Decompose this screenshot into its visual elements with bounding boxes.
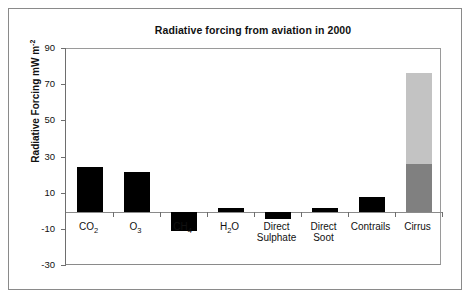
x-tick-label-cirrus: Cirrus: [378, 221, 458, 233]
bar-cirrus-lower-segment: [406, 164, 432, 212]
chart-title: Radiative forcing from aviation in 2000: [65, 24, 441, 36]
bar-contrails: [359, 197, 385, 211]
bar-co2: [77, 167, 103, 212]
y-tick-mark: [61, 265, 66, 266]
y-tick-mark: [61, 84, 66, 85]
y-axis-label: Radiative Forcing mW m-2: [29, 6, 41, 196]
x-tick-mark: [254, 212, 255, 217]
bar-direct-soot: [312, 208, 338, 212]
y-tick-label: 90: [21, 42, 55, 53]
bar-direct-sulphate: [265, 212, 291, 219]
x-tick-mark: [301, 212, 302, 217]
x-tick-mark: [395, 212, 396, 217]
y-tick-label: 30: [21, 151, 55, 162]
y-axis-label-text: Radiative Forcing mW m: [30, 46, 41, 163]
bar-h2o: [218, 208, 244, 212]
bar-o3: [124, 172, 150, 212]
x-tick-mark: [442, 212, 443, 217]
y-tick-mark: [61, 120, 66, 121]
x-tick-mark: [160, 212, 161, 217]
chart-figure: Radiative forcing from aviation in 2000 …: [0, 0, 471, 304]
y-tick-label: 50: [21, 114, 55, 125]
y-tick-label: 70: [21, 78, 55, 89]
y-tick-mark: [61, 193, 66, 194]
y-tick-mark: [61, 157, 66, 158]
y-tick-label: 10: [21, 187, 55, 198]
y-tick-mark: [61, 48, 66, 49]
bar-cirrus: [406, 73, 432, 212]
x-tick-mark: [113, 212, 114, 217]
y-tick-label: -30: [21, 259, 55, 270]
x-tick-mark: [348, 212, 349, 217]
bar-cirrus-upper-segment: [406, 73, 432, 164]
x-tick-mark: [207, 212, 208, 217]
